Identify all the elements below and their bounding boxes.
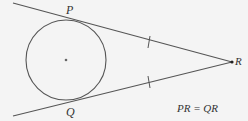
label-p: P: [66, 4, 73, 16]
circle-center-dot: [65, 59, 68, 62]
tangent-line-pr: [13, 3, 232, 62]
tick-mark-pr: [148, 36, 150, 48]
label-r: R: [235, 56, 242, 67]
point-r-dot: [230, 60, 233, 63]
tangent-diagram: P Q R PR = QR: [0, 0, 248, 121]
equation-label: PR = QR: [177, 103, 218, 114]
label-q: Q: [66, 106, 75, 118]
